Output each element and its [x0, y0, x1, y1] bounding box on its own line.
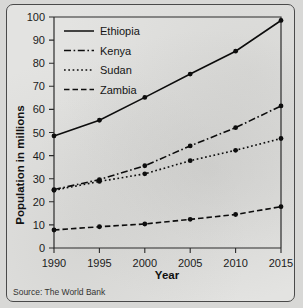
data-point-kenya-2005: [188, 143, 193, 148]
data-point-ethiopia-2015: [279, 18, 284, 23]
legend-label-kenya: Kenya: [100, 45, 132, 57]
data-point-ethiopia-2005: [188, 72, 193, 77]
x-tick-label: 2005: [178, 257, 202, 269]
x-tick-label: 1990: [42, 257, 66, 269]
population-line-chart: Population in millions 01020304050607080…: [7, 5, 294, 301]
y-tick-label: 80: [33, 57, 45, 69]
x-tick-label: 2000: [133, 257, 157, 269]
data-point-ethiopia-1990: [52, 134, 57, 139]
data-point-sudan-2000: [142, 171, 147, 176]
legend-label-zambia: Zambia: [100, 84, 138, 96]
y-tick-label: 70: [33, 80, 45, 92]
data-point-sudan-1995: [97, 179, 102, 184]
y-tick-label: 100: [27, 11, 45, 23]
series-line-ethiopia: [54, 20, 281, 136]
y-axis-ticks: 0102030405060708090100: [27, 11, 54, 254]
y-tick-label: 30: [33, 173, 45, 185]
x-tick-label: 1995: [87, 257, 111, 269]
data-point-kenya-2000: [142, 163, 147, 168]
y-tick-label: 40: [33, 150, 45, 162]
y-tick-label: 50: [33, 127, 45, 139]
plot-frame: [54, 17, 281, 248]
data-point-ethiopia-2000: [142, 95, 147, 100]
series-line-zambia: [54, 207, 281, 230]
data-point-zambia-2010: [233, 212, 238, 217]
data-point-zambia-2015: [279, 204, 284, 209]
data-point-zambia-2005: [188, 217, 193, 222]
data-point-sudan-2015: [279, 136, 284, 141]
data-point-sudan-2005: [188, 158, 193, 163]
data-point-sudan-1990: [52, 188, 57, 193]
chart-legend: EthiopiaKenyaSudanZambia: [64, 25, 141, 96]
data-point-ethiopia-1995: [97, 118, 102, 123]
series-line-kenya: [54, 106, 281, 190]
data-point-sudan-2010: [233, 148, 238, 153]
x-tick-label: 2010: [223, 257, 247, 269]
data-point-kenya-2010: [233, 125, 238, 130]
legend-label-ethiopia: Ethiopia: [100, 25, 141, 37]
data-point-kenya-2015: [279, 104, 284, 109]
series-line-sudan: [54, 139, 281, 191]
data-series-group: [52, 18, 284, 232]
data-point-zambia-1990: [52, 228, 57, 233]
chart-figure: Population in millions 01020304050607080…: [6, 4, 295, 302]
y-tick-label: 20: [33, 196, 45, 208]
y-tick-label: 10: [33, 219, 45, 231]
x-tick-label: 2015: [269, 257, 293, 269]
data-point-zambia-2000: [142, 222, 147, 227]
x-axis-title: Year: [155, 269, 180, 281]
y-axis-title: Population in millions: [14, 105, 26, 224]
y-tick-label: 60: [33, 103, 45, 115]
data-point-ethiopia-2010: [233, 49, 238, 54]
data-point-zambia-1995: [97, 224, 102, 229]
y-tick-label: 90: [33, 34, 45, 46]
source-caption: Source: The World Bank: [13, 287, 106, 297]
x-axis-ticks: 199019952000200520102015: [42, 248, 293, 269]
legend-label-sudan: Sudan: [100, 64, 132, 76]
y-tick-label: 0: [39, 242, 45, 254]
